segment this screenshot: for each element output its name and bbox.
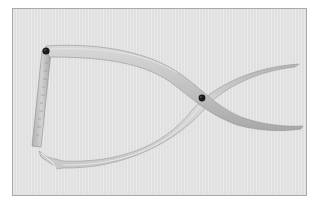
upper-arm (46, 45, 303, 130)
caliper-illustration (13, 9, 307, 196)
caliper-photo (12, 8, 307, 196)
scale-arm (32, 51, 51, 147)
pivot-rivet (199, 95, 206, 102)
hinge-rivet (42, 47, 49, 54)
